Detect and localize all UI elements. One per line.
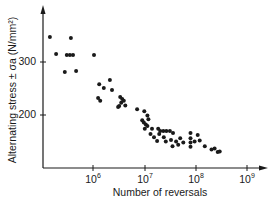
data-point bbox=[198, 138, 202, 142]
data-point bbox=[189, 136, 193, 140]
y-axis-arrow-icon bbox=[41, 5, 46, 14]
data-point bbox=[102, 86, 106, 90]
data-point bbox=[213, 146, 217, 150]
data-point bbox=[181, 141, 185, 145]
data-point bbox=[108, 78, 112, 82]
data-point bbox=[145, 114, 149, 118]
data-point bbox=[164, 140, 168, 144]
data-point bbox=[123, 104, 127, 108]
data-point bbox=[171, 144, 175, 148]
x-axis-arrow-icon bbox=[259, 166, 268, 171]
data-point bbox=[193, 140, 197, 144]
data-point bbox=[176, 143, 180, 147]
data-point bbox=[122, 99, 126, 103]
data-point bbox=[74, 69, 78, 73]
data-point bbox=[110, 88, 114, 92]
data-point bbox=[92, 53, 96, 57]
data-point bbox=[178, 136, 182, 140]
data-point bbox=[142, 109, 146, 113]
data-point bbox=[152, 135, 156, 139]
data-point bbox=[203, 144, 207, 148]
data-point bbox=[218, 150, 222, 154]
sn-fatigue-chart: 300 200 106 107 108 109 Number of revers… bbox=[0, 0, 274, 201]
x-tick-label-1e8: 108 bbox=[181, 172, 211, 185]
y-axis-label: Alternating stress ± σa (N/mm²) bbox=[6, 15, 20, 165]
data-point bbox=[71, 53, 75, 57]
data-point bbox=[98, 99, 102, 103]
data-point bbox=[189, 141, 193, 145]
data-point bbox=[150, 127, 154, 131]
data-point bbox=[54, 52, 58, 56]
data-point bbox=[171, 131, 175, 135]
data-point bbox=[169, 138, 173, 142]
data-points bbox=[48, 35, 222, 154]
data-point bbox=[48, 35, 52, 39]
plot-area bbox=[0, 0, 274, 201]
data-point bbox=[196, 133, 200, 137]
x-tick-label-1e9: 109 bbox=[232, 172, 262, 185]
data-point bbox=[155, 139, 159, 143]
data-point bbox=[97, 82, 101, 86]
data-point bbox=[149, 132, 153, 136]
data-point bbox=[116, 105, 120, 109]
x-tick-label-1e7: 107 bbox=[130, 172, 160, 185]
data-point bbox=[143, 127, 147, 131]
data-point bbox=[189, 131, 193, 135]
data-point bbox=[164, 129, 168, 133]
data-point bbox=[63, 70, 67, 74]
x-tick-label-1e6: 106 bbox=[78, 172, 108, 185]
data-point bbox=[162, 135, 166, 139]
data-point bbox=[135, 107, 139, 111]
data-point bbox=[69, 36, 73, 40]
x-axis-label: Number of reversals bbox=[100, 186, 220, 198]
data-point bbox=[146, 117, 150, 121]
data-point bbox=[189, 145, 193, 149]
data-point bbox=[157, 132, 161, 136]
